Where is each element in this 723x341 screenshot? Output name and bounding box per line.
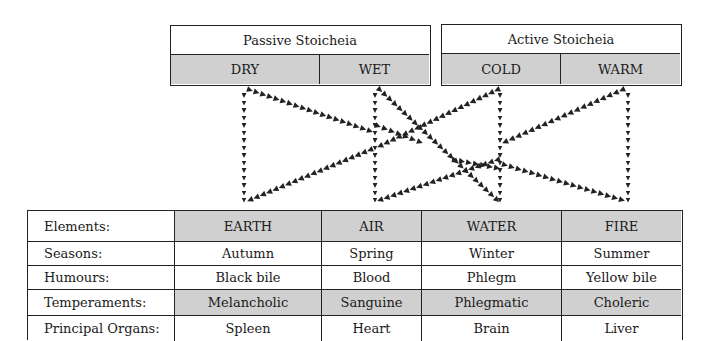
arrowhead-icon bbox=[388, 136, 396, 144]
arrowhead-icon bbox=[599, 95, 607, 103]
arrowhead-icon bbox=[577, 184, 584, 191]
arrowhead-icon bbox=[529, 170, 536, 177]
arrowhead-icon bbox=[265, 188, 273, 196]
arrowhead-icon bbox=[303, 172, 311, 180]
arrowhead-icon bbox=[360, 149, 368, 157]
arrowhead-icon bbox=[493, 164, 500, 171]
table-cell: Phlegm bbox=[421, 265, 561, 289]
arrowhead-icon bbox=[458, 158, 465, 165]
arrowhead-icon bbox=[547, 118, 555, 126]
correspondence-table: Elements:EARTHAIRWATERFIRESeasons:Autumn… bbox=[27, 210, 683, 340]
arrowhead-icon bbox=[316, 167, 324, 175]
arrowhead-icon bbox=[326, 114, 334, 122]
table-cell: Choleric bbox=[561, 289, 681, 315]
arrowhead-icon bbox=[556, 178, 563, 185]
arrowhead-icon bbox=[383, 194, 391, 202]
arrowhead-icon bbox=[592, 98, 600, 106]
arrowhead-icon bbox=[284, 180, 292, 188]
arrowhead-icon bbox=[300, 104, 308, 112]
table-cell: Winter bbox=[421, 241, 561, 265]
table-cell: Sanguine bbox=[321, 289, 421, 315]
arrowhead-icon bbox=[591, 188, 598, 195]
arrowhead-icon bbox=[493, 86, 501, 94]
arrowhead-icon bbox=[493, 196, 501, 204]
arrowhead-icon bbox=[428, 178, 436, 186]
arrowhead-icon bbox=[467, 165, 475, 173]
arrowhead-icon bbox=[431, 115, 439, 123]
arrowhead-icon bbox=[409, 185, 417, 193]
arrowhead-icon bbox=[389, 192, 397, 200]
arrowhead-icon bbox=[376, 142, 384, 150]
arrowhead-icon bbox=[611, 194, 618, 201]
arrowhead-icon bbox=[402, 187, 410, 195]
arrowhead-icon bbox=[493, 156, 501, 164]
arrowhead-icon bbox=[540, 121, 548, 129]
arrowhead-icon bbox=[566, 109, 574, 117]
arrowhead-icon bbox=[407, 127, 415, 135]
arrowhead-icon bbox=[422, 181, 430, 189]
table-cell: Autumn bbox=[174, 241, 321, 265]
arrowhead-icon bbox=[612, 89, 620, 97]
arrowhead-icon bbox=[468, 98, 476, 106]
table-cell: EARTH bbox=[174, 211, 321, 241]
arrowhead-icon bbox=[461, 167, 469, 175]
table-cell: Yellow bile bbox=[561, 265, 681, 289]
arrowhead-icon bbox=[396, 190, 404, 198]
table-cell: Spleen bbox=[174, 315, 321, 341]
arrowhead-icon bbox=[598, 190, 605, 197]
arrowhead-icon bbox=[253, 88, 261, 96]
arrowhead-icon bbox=[487, 89, 495, 97]
arrowhead-icon bbox=[475, 95, 483, 103]
arrowhead-icon bbox=[246, 86, 254, 94]
arrowhead-icon bbox=[333, 116, 341, 124]
arrowhead-icon bbox=[536, 172, 543, 179]
arrowhead-icon bbox=[543, 174, 550, 181]
arrowhead-icon bbox=[486, 163, 493, 170]
arrowhead-icon bbox=[501, 138, 509, 146]
arrowhead-icon bbox=[454, 170, 462, 178]
arrowhead-icon bbox=[290, 178, 298, 186]
arrowhead-icon bbox=[252, 193, 260, 201]
arrowhead-icon bbox=[527, 126, 535, 134]
arrowhead-icon bbox=[515, 165, 522, 172]
arrowhead-icon bbox=[605, 192, 612, 199]
arrowhead-icon bbox=[293, 102, 301, 110]
arrowhead-icon bbox=[438, 113, 446, 121]
arrowhead-icon bbox=[328, 162, 336, 170]
arrowhead-icon bbox=[553, 115, 561, 123]
arrowhead-icon bbox=[313, 109, 321, 117]
table-cell: Brain bbox=[421, 315, 561, 341]
arrowhead-icon bbox=[297, 175, 305, 183]
arrowhead-icon bbox=[334, 159, 342, 167]
arrowhead-icon bbox=[534, 124, 542, 132]
table-cell: Liver bbox=[561, 315, 681, 341]
arrowhead-icon bbox=[353, 151, 361, 159]
arrowhead-icon bbox=[309, 170, 317, 178]
arrowhead-icon bbox=[563, 180, 570, 187]
table-cell: Black bile bbox=[174, 265, 321, 289]
arrowhead-icon bbox=[425, 118, 433, 126]
arrowhead-icon bbox=[481, 92, 489, 100]
arrowhead-icon bbox=[441, 174, 449, 182]
arrowhead-icon bbox=[376, 196, 384, 204]
arrowhead-icon bbox=[522, 167, 529, 174]
arrowhead-icon bbox=[570, 182, 577, 189]
arrowhead-icon bbox=[435, 176, 443, 184]
arrowhead-icon bbox=[320, 111, 328, 119]
arrowhead-icon bbox=[549, 176, 556, 183]
table-cell: Heart bbox=[321, 315, 421, 341]
arrowhead-icon bbox=[266, 93, 274, 101]
arrowhead-icon bbox=[388, 127, 396, 135]
arrowhead-icon bbox=[259, 191, 267, 199]
arrowhead-icon bbox=[618, 86, 626, 94]
arrowhead-icon bbox=[374, 122, 382, 130]
arrowhead-icon bbox=[462, 101, 470, 109]
arrowhead-icon bbox=[340, 118, 348, 126]
table-cell: AIR bbox=[321, 211, 421, 241]
arrowhead-icon bbox=[456, 104, 464, 112]
arrowhead-icon bbox=[618, 196, 625, 203]
arrowhead-icon bbox=[280, 98, 288, 106]
row-label-principal-organs: Principal Organs: bbox=[28, 315, 174, 341]
row-label-temperaments: Temperaments: bbox=[28, 289, 174, 315]
arrowhead-icon bbox=[605, 92, 613, 100]
